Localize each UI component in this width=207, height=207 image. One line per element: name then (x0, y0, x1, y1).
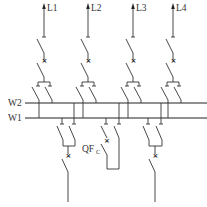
feeder-label-l3: L3 (136, 3, 147, 13)
bus-label-w1: W1 (8, 113, 22, 123)
bus-coupler-subscript: C (96, 148, 100, 155)
feeder-l4: × L4 (161, 3, 187, 118)
bus-coupler-label: QF (82, 144, 94, 154)
double-busbar-diagram: W2 W1 × L1 × L2 × L3 × L4 × (0, 0, 207, 207)
breaker-icon: × (131, 57, 137, 65)
breaker-icon: × (86, 57, 92, 65)
breaker-icon: × (66, 152, 72, 160)
feeder-l3: × L3 (121, 3, 147, 118)
breaker-icon: × (42, 57, 48, 65)
breaker-icon: × (104, 137, 110, 145)
feeder-l2: × L2 (76, 3, 102, 118)
feeder-label-l2: L2 (91, 3, 102, 13)
bus-label-w2: W2 (8, 98, 22, 108)
feeder-l1: × L1 (32, 3, 58, 118)
bus-coupler-qfc: × QF C (82, 103, 121, 169)
breaker-icon: × (153, 152, 159, 160)
feeder-label-l1: L1 (47, 3, 58, 13)
breaker-icon: × (171, 57, 177, 65)
feeder-label-l4: L4 (176, 3, 187, 13)
